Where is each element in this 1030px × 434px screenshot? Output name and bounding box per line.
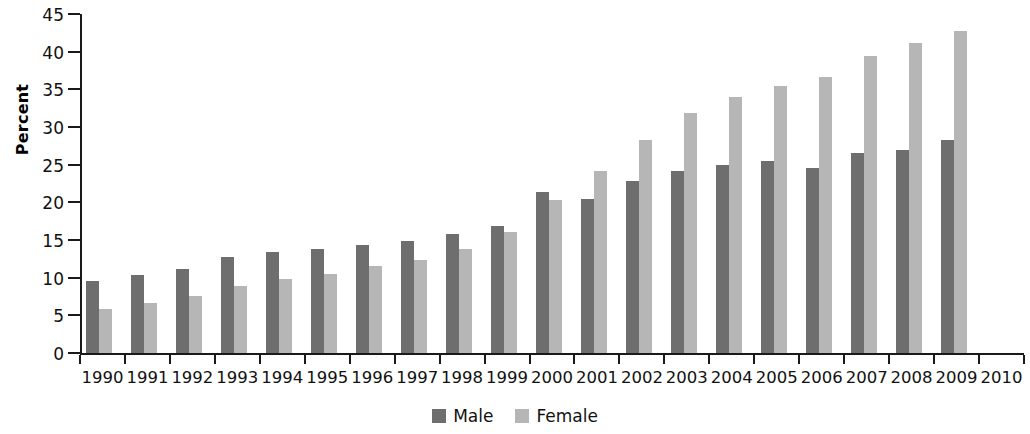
male-swatch-icon [432,409,446,423]
bar-male-2007 [851,153,864,353]
x-tick [708,355,710,364]
x-tick-label: 2010 [972,368,1030,387]
y-tick-label: 35 [24,80,64,100]
x-tick [79,355,81,364]
y-tick-label: 15 [24,231,64,251]
bar-female-1995 [324,274,337,353]
x-tick [304,355,306,364]
x-tick [843,355,845,364]
bar-male-2003 [671,171,684,353]
bar-male-2008 [896,150,909,353]
x-tick [529,355,531,364]
bar-male-2002 [626,181,639,354]
x-tick [124,355,126,364]
x-axis-line [80,353,1024,355]
bar-female-1999 [504,232,517,353]
y-tick [68,239,80,241]
legend-item-male: Male [432,406,493,426]
y-tick [68,277,80,279]
x-tick [618,355,620,364]
y-tick [68,13,80,15]
bar-male-2004 [716,165,729,353]
y-tick-label: 40 [24,43,64,63]
bar-female-2004 [729,97,742,353]
x-tick [394,355,396,364]
legend-label-male: Male [453,406,493,426]
bar-male-1995 [311,249,324,353]
y-tick-label: 30 [24,118,64,138]
bar-female-1990 [99,309,112,353]
bar-female-1991 [144,303,157,353]
bar-male-1996 [356,245,369,353]
bar-male-2000 [536,192,549,353]
bar-female-2006 [819,77,832,353]
bar-female-2003 [684,113,697,353]
chart-legend: Male Female [0,406,1030,426]
x-tick [484,355,486,364]
x-tick [978,355,980,364]
x-tick [753,355,755,364]
bar-female-2007 [864,56,877,353]
x-tick [798,355,800,364]
bar-female-1996 [369,266,382,353]
bar-male-1994 [266,252,279,353]
bar-male-2001 [581,199,594,353]
y-tick [68,51,80,53]
y-tick [68,88,80,90]
y-tick [68,201,80,203]
bar-male-1998 [446,234,459,353]
y-tick-label: 10 [24,269,64,289]
bar-female-2009 [954,31,967,353]
y-tick [68,314,80,316]
y-tick [68,126,80,128]
x-tick [573,355,575,364]
bar-female-1998 [459,249,472,353]
bar-male-1990 [86,281,99,353]
bars-layer [80,14,1024,353]
legend-item-female: Female [515,406,597,426]
x-tick [933,355,935,364]
y-tick-label: 25 [24,156,64,176]
bar-male-1992 [176,269,189,353]
bar-female-2002 [639,140,652,353]
x-tick [439,355,441,364]
bar-female-2000 [549,200,562,353]
y-tick-label: 45 [24,5,64,25]
x-tick [663,355,665,364]
bar-male-1999 [491,226,504,353]
bar-male-1991 [131,275,144,353]
x-tick [888,355,890,364]
bar-female-2005 [774,86,787,353]
x-tick [1023,355,1025,364]
bar-male-2005 [761,161,774,353]
bar-female-2008 [909,43,922,353]
y-tick-label: 0 [24,344,64,364]
bar-male-2009 [941,140,954,353]
y-tick [68,352,80,354]
bar-female-1992 [189,296,202,353]
y-tick-label: 20 [24,193,64,213]
x-tick [169,355,171,364]
x-tick [349,355,351,364]
bar-male-1993 [221,257,234,353]
x-tick [214,355,216,364]
y-tick [68,164,80,166]
bar-female-1993 [234,286,247,353]
bar-male-2006 [806,168,819,353]
bar-chart: Percent 051015202530354045 1990199119921… [0,0,1030,434]
legend-label-female: Female [536,406,597,426]
bar-female-1994 [279,279,292,353]
bar-female-2001 [594,171,607,353]
bar-male-1997 [401,241,414,353]
y-tick-label: 5 [24,306,64,326]
bar-female-1997 [414,260,427,353]
x-tick [259,355,261,364]
female-swatch-icon [515,409,529,423]
